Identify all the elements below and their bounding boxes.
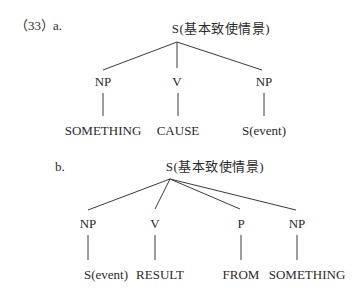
tree-a-label: a.: [53, 18, 62, 33]
tree-a-leaf-np2: S(event): [242, 123, 286, 138]
tree-a-leaf-v: CAUSE: [157, 123, 200, 138]
tree-b-branches: [88, 179, 297, 260]
tree-b-leaf-np1: S(event): [84, 267, 128, 282]
example-number: （33）: [15, 18, 54, 33]
tree-b-leaf-np2: SOMETHING: [269, 267, 346, 282]
branch-b-np1: [88, 179, 170, 210]
tree-b-node-np1: NP: [80, 216, 97, 231]
branch-a-np1: [103, 42, 177, 70]
tree-a-branches: [103, 42, 264, 116]
tree-a-root: S(基本致使情景): [172, 21, 270, 36]
tree-b-label: b.: [55, 159, 65, 174]
tree-b-node-np2: NP: [289, 216, 306, 231]
tree-branches: [0, 0, 359, 295]
tree-a-node-np2: NP: [256, 74, 273, 89]
tree-b-root: S(基本致使情景): [166, 159, 264, 174]
tree-a-leaf-np1: SOMETHING: [65, 123, 142, 138]
branch-a-np2: [177, 42, 262, 70]
tree-b-node-v: V: [150, 216, 159, 231]
tree-b-leaf-v: RESULT: [136, 267, 184, 282]
tree-a-node-v: V: [172, 74, 181, 89]
tree-b-node-p: P: [237, 216, 244, 231]
tree-b-leaf-p: FROM: [223, 267, 260, 282]
branch-b-np2: [170, 179, 296, 210]
tree-a-node-np1: NP: [95, 74, 112, 89]
